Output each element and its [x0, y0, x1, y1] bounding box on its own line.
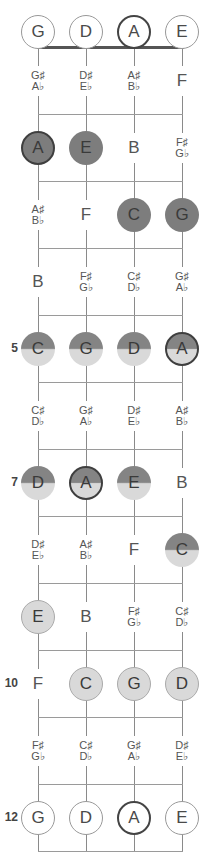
- note: D♯E♭: [121, 401, 147, 431]
- note-label: E: [128, 473, 139, 493]
- note: F: [169, 66, 195, 96]
- note-label: D: [176, 674, 188, 694]
- note-label: E: [176, 22, 187, 42]
- fret-line-10: [38, 717, 183, 718]
- note: D: [69, 801, 103, 835]
- enharmonic-label: F♯G♭: [127, 606, 141, 628]
- sharp-label: F♯: [80, 271, 92, 282]
- flat-label: A♭: [32, 81, 44, 92]
- note-label: G: [175, 205, 188, 225]
- note: E: [165, 15, 199, 49]
- fret-line-12: [38, 851, 183, 852]
- flat-label: A♭: [80, 416, 92, 427]
- note: B: [169, 468, 195, 498]
- flat-label: A♭: [176, 282, 188, 293]
- sharp-label: D♯: [31, 539, 44, 550]
- enharmonic-label: C♯D♭: [127, 271, 140, 293]
- note: D♯E♭: [25, 535, 51, 565]
- sharp-label: A♯: [80, 539, 93, 550]
- flat-label: G♭: [31, 751, 45, 762]
- sharp-label: C♯: [79, 740, 92, 751]
- note: A: [117, 15, 151, 49]
- sharp-label: G♯: [79, 405, 93, 416]
- note: B: [73, 602, 99, 632]
- note: A: [21, 131, 55, 165]
- fret-line-8: [38, 583, 183, 584]
- note-label: G: [31, 22, 44, 42]
- note: D: [21, 466, 55, 500]
- sharp-label: D♯: [175, 740, 188, 751]
- note: C: [69, 667, 103, 701]
- enharmonic-label: A♯B♭: [176, 405, 189, 427]
- note: C♯D♭: [25, 401, 51, 431]
- sharp-label: C♯: [127, 271, 140, 282]
- note-label: F: [177, 71, 187, 91]
- fret-line-9: [38, 650, 183, 651]
- note: G: [165, 198, 199, 232]
- note-label: C: [128, 205, 140, 225]
- note-label: B: [128, 138, 139, 158]
- fret-number: 12: [2, 810, 18, 824]
- note-label: F: [33, 674, 43, 694]
- note: G♯A♭: [73, 401, 99, 431]
- sharp-label: G♯: [127, 740, 141, 751]
- note-label: D: [80, 22, 92, 42]
- enharmonic-label: D♯E♭: [31, 539, 44, 561]
- fret-line-6: [38, 449, 183, 450]
- enharmonic-label: A♯B♭: [80, 539, 93, 561]
- sharp-label: D♯: [79, 70, 92, 81]
- note: F♯G♭: [169, 133, 195, 163]
- enharmonic-label: D♯E♭: [127, 405, 140, 427]
- note-label: B: [176, 473, 187, 493]
- note-label: F: [129, 540, 139, 560]
- note: A♯B♭: [73, 535, 99, 565]
- enharmonic-label: D♯E♭: [175, 740, 188, 762]
- note-label: E: [32, 607, 43, 627]
- note-label: A: [176, 339, 187, 359]
- flat-label: B♭: [128, 81, 140, 92]
- flat-label: E♭: [32, 550, 44, 561]
- note: G: [21, 15, 55, 49]
- flat-label: A♭: [128, 751, 140, 762]
- flat-label: D♭: [80, 751, 93, 762]
- enharmonic-label: G♯A♭: [79, 405, 93, 427]
- note: A: [117, 801, 151, 835]
- note: G: [69, 332, 103, 366]
- note: G: [117, 667, 151, 701]
- fret-number: 5: [2, 341, 18, 355]
- note: F: [121, 535, 147, 565]
- enharmonic-label: C♯D♭: [31, 405, 44, 427]
- note: D: [117, 332, 151, 366]
- note-label: C: [176, 540, 188, 560]
- note: F: [25, 669, 51, 699]
- sharp-label: F♯: [176, 137, 188, 148]
- note: A♯B♭: [25, 200, 51, 230]
- note: F: [73, 200, 99, 230]
- note-label: E: [176, 808, 187, 828]
- note-label: D: [128, 339, 140, 359]
- note-label: B: [32, 272, 43, 292]
- enharmonic-label: G♯A♭: [175, 271, 189, 293]
- note: E: [165, 801, 199, 835]
- sharp-label: G♯: [31, 70, 45, 81]
- fret-line-3: [38, 248, 183, 249]
- enharmonic-label: C♯D♭: [79, 740, 92, 762]
- flat-label: E♭: [80, 81, 92, 92]
- fretboard-diagram: GDAEG♯A♭D♯E♭A♯B♭FAEBF♯G♭A♯B♭FCGBF♯G♭C♯D♭…: [0, 0, 209, 864]
- note-label: C: [32, 339, 44, 359]
- note: C: [21, 332, 55, 366]
- flat-label: B♭: [32, 215, 44, 226]
- flat-label: D♭: [128, 282, 141, 293]
- fret-line-11: [38, 784, 183, 785]
- enharmonic-label: F♯G♭: [79, 271, 93, 293]
- sharp-label: G♯: [175, 271, 189, 282]
- enharmonic-label: D♯E♭: [79, 70, 92, 92]
- enharmonic-label: G♯A♭: [127, 740, 141, 762]
- note-label: C: [80, 674, 92, 694]
- sharp-label: F♯: [32, 740, 44, 751]
- fret-line-7: [38, 516, 183, 517]
- enharmonic-label: A♯B♭: [32, 204, 45, 226]
- note: A: [165, 332, 199, 366]
- note: C♯D♭: [169, 602, 195, 632]
- note: D♯E♭: [73, 66, 99, 96]
